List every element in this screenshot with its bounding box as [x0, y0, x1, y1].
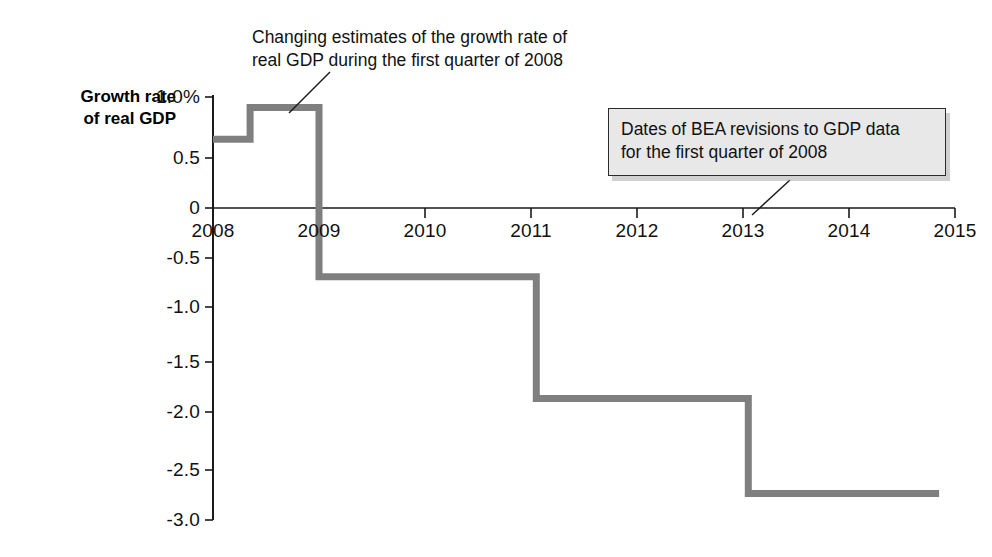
y-tick-label-1: 1.0% — [115, 86, 200, 108]
y-tick-label-0: 0 — [115, 197, 200, 219]
annotation-growth-estimates-line-1: Changing estimates of the growth rate of — [252, 26, 582, 49]
x-axis-ticks — [213, 208, 955, 218]
x-tick-label-2014: 2014 — [804, 220, 894, 242]
annotation-bea-revisions-line-2: for the first quarter of 2008 — [621, 141, 933, 164]
y-tick-label-neg0_5: -0.5 — [115, 247, 200, 269]
y-tick-label-0_5: 0.5 — [115, 147, 200, 169]
y-axis-title-line-2: of real GDP — [36, 108, 176, 130]
annotation-growth-estimates: Changing estimates of the growth rate of… — [252, 26, 582, 72]
y-tick-label-neg3_0: -3.0 — [115, 509, 200, 531]
x-tick-label-2009: 2009 — [274, 220, 364, 242]
y-tick-label-neg2_0: -2.0 — [115, 401, 200, 423]
x-tick-label-2013: 2013 — [698, 220, 788, 242]
y-tick-label-neg2_5: -2.5 — [115, 459, 200, 481]
annotation-bea-revisions: Dates of BEA revisions to GDP data for t… — [608, 108, 946, 176]
x-tick-label-2015: 2015 — [910, 220, 992, 242]
x-tick-label-2010: 2010 — [380, 220, 470, 242]
leader-line-bea-note — [752, 180, 790, 215]
x-tick-label-2011: 2011 — [486, 220, 576, 242]
y-axis-ticks — [205, 97, 213, 520]
x-tick-label-2008: 2008 — [168, 220, 258, 242]
gdp-revisions-step-chart: Growth rate of real GDP 1.0% 0.5 0 -0.5 … — [0, 0, 992, 557]
annotation-growth-estimates-line-2: real GDP during the first quarter of 200… — [252, 49, 582, 72]
annotation-bea-revisions-line-1: Dates of BEA revisions to GDP data — [621, 118, 933, 141]
y-tick-label-neg1_5: -1.5 — [115, 351, 200, 373]
x-tick-label-2012: 2012 — [592, 220, 682, 242]
y-tick-label-neg1_0: -1.0 — [115, 296, 200, 318]
